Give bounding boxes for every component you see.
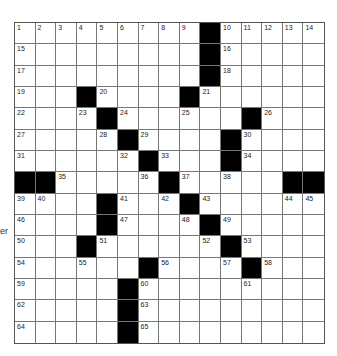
grid-cell[interactable] bbox=[283, 151, 304, 172]
grid-cell[interactable] bbox=[139, 44, 160, 65]
grid-cell[interactable]: 1 bbox=[15, 23, 36, 44]
grid-cell[interactable] bbox=[262, 130, 283, 151]
grid-cell[interactable] bbox=[56, 108, 77, 129]
grid-cell[interactable] bbox=[283, 215, 304, 236]
grid-cell[interactable] bbox=[56, 130, 77, 151]
grid-cell[interactable] bbox=[262, 300, 283, 321]
grid-cell[interactable]: 31 bbox=[15, 151, 36, 172]
grid-cell[interactable] bbox=[283, 130, 304, 151]
grid-cell[interactable] bbox=[221, 87, 242, 108]
grid-cell[interactable]: 9 bbox=[180, 23, 201, 44]
grid-cell[interactable]: 30 bbox=[242, 130, 263, 151]
grid-cell[interactable] bbox=[262, 194, 283, 215]
grid-cell[interactable] bbox=[283, 236, 304, 257]
grid-cell[interactable] bbox=[77, 44, 98, 65]
grid-cell[interactable] bbox=[200, 300, 221, 321]
grid-cell[interactable] bbox=[283, 300, 304, 321]
grid-cell[interactable]: 11 bbox=[242, 23, 263, 44]
grid-cell[interactable]: 26 bbox=[262, 108, 283, 129]
grid-cell[interactable] bbox=[303, 44, 324, 65]
grid-cell[interactable] bbox=[118, 87, 139, 108]
grid-cell[interactable]: 56 bbox=[159, 258, 180, 279]
grid-cell[interactable] bbox=[262, 66, 283, 87]
grid-cell[interactable] bbox=[303, 322, 324, 343]
grid-cell[interactable]: 25 bbox=[180, 108, 201, 129]
grid-cell[interactable] bbox=[283, 87, 304, 108]
grid-cell[interactable] bbox=[303, 130, 324, 151]
grid-cell[interactable] bbox=[56, 279, 77, 300]
grid-cell[interactable]: 27 bbox=[15, 130, 36, 151]
grid-cell[interactable] bbox=[36, 236, 57, 257]
grid-cell[interactable] bbox=[242, 215, 263, 236]
grid-cell[interactable]: 33 bbox=[159, 151, 180, 172]
grid-cell[interactable]: 36 bbox=[139, 172, 160, 193]
grid-cell[interactable]: 40 bbox=[36, 194, 57, 215]
grid-cell[interactable] bbox=[180, 44, 201, 65]
grid-cell[interactable] bbox=[180, 236, 201, 257]
grid-cell[interactable] bbox=[221, 322, 242, 343]
grid-cell[interactable] bbox=[221, 279, 242, 300]
grid-cell[interactable]: 53 bbox=[242, 236, 263, 257]
grid-cell[interactable] bbox=[242, 194, 263, 215]
grid-cell[interactable] bbox=[56, 194, 77, 215]
grid-cell[interactable] bbox=[139, 215, 160, 236]
grid-cell[interactable]: 63 bbox=[139, 300, 160, 321]
grid-cell[interactable] bbox=[77, 215, 98, 236]
grid-cell[interactable] bbox=[221, 194, 242, 215]
grid-cell[interactable]: 20 bbox=[97, 87, 118, 108]
grid-cell[interactable]: 54 bbox=[15, 258, 36, 279]
grid-cell[interactable]: 6 bbox=[118, 23, 139, 44]
grid-cell[interactable] bbox=[36, 258, 57, 279]
grid-cell[interactable]: 45 bbox=[303, 194, 324, 215]
grid-cell[interactable]: 17 bbox=[15, 66, 36, 87]
grid-cell[interactable]: 38 bbox=[221, 172, 242, 193]
grid-cell[interactable] bbox=[242, 300, 263, 321]
grid-cell[interactable] bbox=[262, 215, 283, 236]
grid-cell[interactable]: 16 bbox=[221, 44, 242, 65]
grid-cell[interactable] bbox=[77, 279, 98, 300]
grid-cell[interactable] bbox=[303, 300, 324, 321]
grid-cell[interactable] bbox=[159, 279, 180, 300]
grid-cell[interactable] bbox=[97, 66, 118, 87]
grid-cell[interactable] bbox=[77, 300, 98, 321]
grid-cell[interactable]: 65 bbox=[139, 322, 160, 343]
grid-cell[interactable] bbox=[303, 108, 324, 129]
grid-cell[interactable] bbox=[97, 258, 118, 279]
grid-cell[interactable] bbox=[262, 172, 283, 193]
grid-cell[interactable] bbox=[303, 279, 324, 300]
grid-cell[interactable] bbox=[159, 66, 180, 87]
grid-cell[interactable] bbox=[303, 151, 324, 172]
grid-cell[interactable] bbox=[159, 300, 180, 321]
grid-cell[interactable]: 57 bbox=[221, 258, 242, 279]
grid-cell[interactable]: 12 bbox=[262, 23, 283, 44]
grid-cell[interactable] bbox=[159, 108, 180, 129]
grid-cell[interactable] bbox=[77, 151, 98, 172]
grid-cell[interactable] bbox=[139, 66, 160, 87]
grid-cell[interactable]: 37 bbox=[180, 172, 201, 193]
grid-cell[interactable] bbox=[200, 130, 221, 151]
grid-cell[interactable] bbox=[56, 236, 77, 257]
grid-cell[interactable] bbox=[36, 215, 57, 236]
grid-cell[interactable]: 35 bbox=[56, 172, 77, 193]
grid-cell[interactable] bbox=[180, 130, 201, 151]
grid-cell[interactable] bbox=[200, 108, 221, 129]
grid-cell[interactable] bbox=[283, 258, 304, 279]
grid-cell[interactable]: 62 bbox=[15, 300, 36, 321]
grid-cell[interactable]: 13 bbox=[283, 23, 304, 44]
grid-cell[interactable] bbox=[56, 258, 77, 279]
grid-cell[interactable] bbox=[139, 87, 160, 108]
grid-cell[interactable]: 59 bbox=[15, 279, 36, 300]
grid-cell[interactable] bbox=[56, 66, 77, 87]
grid-cell[interactable] bbox=[36, 322, 57, 343]
grid-cell[interactable] bbox=[283, 108, 304, 129]
grid-cell[interactable] bbox=[200, 279, 221, 300]
grid-cell[interactable]: 44 bbox=[283, 194, 304, 215]
grid-cell[interactable]: 51 bbox=[97, 236, 118, 257]
grid-cell[interactable] bbox=[118, 44, 139, 65]
grid-cell[interactable] bbox=[77, 322, 98, 343]
grid-cell[interactable]: 39 bbox=[15, 194, 36, 215]
grid-cell[interactable] bbox=[36, 108, 57, 129]
grid-cell[interactable] bbox=[36, 300, 57, 321]
grid-cell[interactable] bbox=[77, 172, 98, 193]
grid-cell[interactable] bbox=[242, 172, 263, 193]
